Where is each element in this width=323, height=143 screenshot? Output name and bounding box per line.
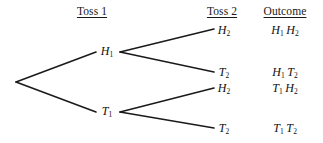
node-h2-upper-base: H bbox=[218, 23, 227, 37]
outcome-t1t2-first-base: T bbox=[273, 121, 280, 135]
node-h1: H1 bbox=[101, 44, 114, 59]
outcome-h1t2-second-base: T bbox=[287, 65, 294, 79]
node-t1-subscript: 1 bbox=[108, 110, 112, 119]
outcome-h1t2-first-base: H bbox=[272, 65, 281, 79]
node-h1-subscript: 1 bbox=[109, 50, 113, 59]
node-t2-lower-subscript: 2 bbox=[225, 127, 229, 136]
node-h1-base: H bbox=[101, 44, 110, 58]
outcome-t1h2-first-base: T bbox=[272, 81, 279, 95]
node-t2-lower-base: T bbox=[219, 121, 226, 135]
column-header-toss-2: Toss 2 bbox=[207, 5, 237, 17]
probability-tree-diagram: Toss 1 Toss 2 Outcome H1 T1 H2 T2 H2 T2 … bbox=[0, 0, 323, 143]
node-t1-base: T bbox=[102, 104, 109, 118]
outcome-h1h2-first-base: H bbox=[271, 23, 280, 37]
node-h2-lower: H2 bbox=[218, 81, 231, 96]
node-h2-upper: H2 bbox=[218, 23, 231, 38]
column-header-outcome: Outcome bbox=[264, 5, 307, 17]
outcome-t1t2-first-subscript: 1 bbox=[280, 127, 284, 136]
outcome-h1t2: H1T2 bbox=[272, 65, 298, 80]
node-h2-upper-subscript: 2 bbox=[226, 29, 230, 38]
node-t1: T1 bbox=[102, 104, 113, 119]
node-t2-upper: T2 bbox=[219, 65, 230, 80]
outcome-h1t2-first-subscript: 1 bbox=[281, 71, 285, 80]
edge-h1-to-h2 bbox=[120, 29, 214, 52]
outcome-t1h2-first-subscript: 1 bbox=[279, 87, 283, 96]
node-h2-lower-base: H bbox=[218, 81, 227, 95]
column-header-toss-1: Toss 1 bbox=[77, 5, 107, 17]
outcome-h1t2-second-subscript: 2 bbox=[294, 71, 298, 80]
node-t2-lower: T2 bbox=[219, 121, 230, 136]
node-t2-upper-base: T bbox=[219, 65, 226, 79]
outcome-t1t2-second-subscript: 2 bbox=[293, 127, 297, 136]
outcome-t1t2: T1T2 bbox=[273, 121, 297, 136]
outcome-t1h2-second-subscript: 2 bbox=[294, 87, 298, 96]
edge-h1-to-t2 bbox=[120, 52, 214, 72]
outcome-h1h2-second-subscript: 2 bbox=[295, 29, 299, 38]
node-h2-lower-subscript: 2 bbox=[226, 87, 230, 96]
outcome-t1h2: T1H2 bbox=[272, 81, 298, 96]
outcome-h1h2: H1H2 bbox=[271, 23, 299, 38]
edge-root-to-t1 bbox=[16, 82, 96, 112]
outcome-t1h2-second-base: H bbox=[285, 81, 294, 95]
edge-root-to-h1 bbox=[16, 52, 96, 82]
edge-t1-to-h2 bbox=[120, 88, 214, 112]
outcome-h1h2-second-base: H bbox=[286, 23, 295, 37]
node-t2-upper-subscript: 2 bbox=[225, 71, 229, 80]
outcome-t1t2-second-base: T bbox=[286, 121, 293, 135]
edge-t1-to-t2 bbox=[120, 112, 214, 128]
outcome-h1h2-first-subscript: 1 bbox=[280, 29, 284, 38]
